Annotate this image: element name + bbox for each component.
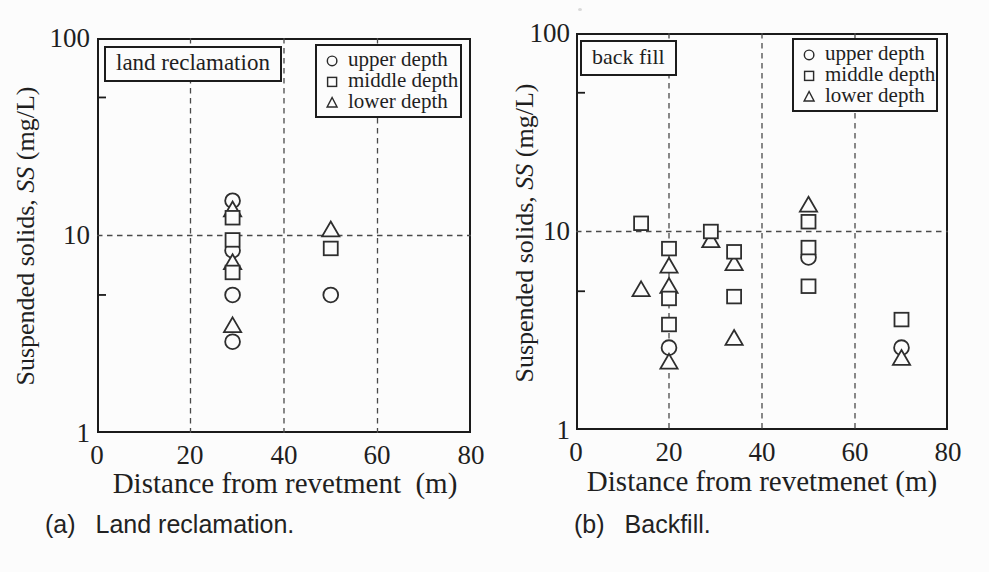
legend-label: lower depth [825, 85, 925, 106]
square-marker-icon [324, 72, 342, 90]
legend-label: middle depth [348, 70, 458, 91]
legend-label: lower depth [348, 91, 448, 112]
y-axis-label-b: Suspended solids, SS (mg/L) [511, 33, 539, 433]
data-point-square [324, 242, 338, 256]
x-axis-label-b: Distance from revetmenet (m) [572, 466, 952, 496]
data-point-square [727, 290, 741, 304]
y-axis-label-ss: SS [11, 167, 40, 193]
data-point-square [662, 318, 676, 332]
data-point-square [704, 225, 718, 239]
data-point-circle [225, 288, 240, 303]
data-point-square [662, 292, 676, 306]
legend-b: upper depth middle depth lower depth [792, 38, 938, 112]
triangle-marker-icon [324, 93, 342, 111]
figure-canvas: land reclamation upper depth middle dept… [0, 0, 989, 572]
data-point-square [802, 241, 816, 255]
x-tick-20: 20 [639, 438, 699, 466]
circle-marker-icon [801, 45, 819, 63]
data-point-square [662, 242, 676, 256]
scan-speck [578, 8, 582, 11]
circle-marker-icon [324, 51, 342, 69]
y-axis-label-text: Suspended solids, [510, 190, 539, 383]
x-tick-60: 60 [347, 441, 407, 469]
x-tick-80: 80 [441, 441, 501, 469]
legend-label: middle depth [825, 64, 935, 85]
legend-item-middle-depth: middle depth [324, 70, 452, 91]
data-point-square [226, 233, 240, 247]
data-point-square [727, 245, 741, 259]
legend-item-upper-depth: upper depth [324, 49, 452, 70]
y-axis-label-unit: (mg/L) [510, 84, 539, 164]
data-point-triangle [660, 354, 677, 369]
y-axis-label-a: Suspended solids, SS (mg/L) [12, 36, 40, 436]
data-point-circle [225, 334, 240, 349]
legend-a: upper depth middle depth lower depth [315, 44, 462, 118]
data-point-circle [323, 288, 338, 303]
caption-b: (b)Backfill. [574, 511, 711, 538]
data-point-square [895, 313, 909, 327]
x-tick-0: 0 [67, 441, 127, 469]
x-tick-20: 20 [160, 441, 220, 469]
legend-item-middle-depth: middle depth [801, 64, 928, 85]
data-point-triangle [660, 278, 677, 293]
x-tick-60: 60 [825, 438, 885, 466]
caption-label: (a) [45, 510, 76, 538]
data-point-square [802, 215, 816, 229]
triangle-marker-icon [801, 87, 819, 105]
legend-item-lower-depth: lower depth [801, 85, 928, 106]
square-marker-icon [801, 66, 819, 84]
legend-label: upper depth [348, 49, 448, 70]
data-point-triangle [660, 258, 677, 273]
data-point-square [802, 279, 816, 293]
data-point-triangle [322, 221, 339, 236]
caption-label: (b) [574, 510, 605, 538]
legend-item-lower-depth: lower depth [324, 91, 452, 112]
plot-title: back fill [592, 44, 665, 69]
plot-title-box-b: back fill [580, 40, 677, 76]
y-axis-label-text: Suspended solids, [11, 193, 40, 386]
x-tick-0: 0 [546, 438, 606, 466]
data-point-triangle [633, 281, 650, 296]
x-tick-40: 40 [732, 438, 792, 466]
x-tick-40: 40 [254, 441, 314, 469]
data-point-triangle [800, 197, 817, 212]
data-point-triangle [224, 317, 241, 332]
data-point-square [634, 216, 648, 230]
plot-title: land reclamation [116, 50, 270, 75]
data-point-triangle [726, 330, 743, 345]
data-point-square [226, 266, 240, 280]
caption-text: Land reclamation. [96, 510, 295, 538]
caption-a: (a)Land reclamation. [45, 511, 294, 538]
y-axis-label-ss: SS [510, 164, 539, 190]
data-point-square [226, 211, 240, 225]
x-tick-80: 80 [918, 438, 978, 466]
legend-item-upper-depth: upper depth [801, 43, 928, 64]
y-axis-label-unit: (mg/L) [11, 87, 40, 167]
plot-title-box-a: land reclamation [104, 46, 282, 82]
x-axis-label-a: Distance from revetment (m) [95, 468, 475, 498]
caption-text: Backfill. [625, 510, 711, 538]
legend-label: upper depth [825, 43, 925, 64]
